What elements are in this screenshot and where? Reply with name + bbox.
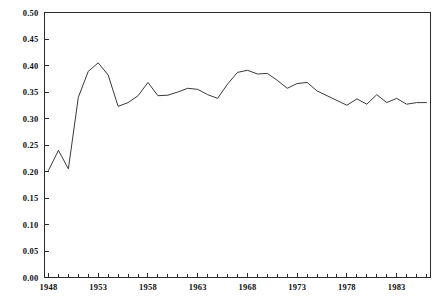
- x-axis-tick-label: 1953: [89, 282, 107, 292]
- y-axis-tick-label: 0.10: [23, 220, 39, 230]
- y-axis-tick-label: 0.35: [23, 87, 39, 97]
- data-series-line: [48, 63, 426, 171]
- x-axis-tick-labels: 19481953195819631968197319781983: [40, 282, 406, 292]
- y-axis-tick-labels: 0.500.450.400.350.300.250.200.150.100.05…: [23, 8, 39, 283]
- series-polyline: [48, 63, 426, 171]
- y-axis-tick-label: 0.20: [23, 167, 39, 177]
- x-axis-tick-label: 1968: [239, 282, 257, 292]
- y-axis-tick-label: 0.15: [23, 193, 39, 203]
- chart-container: 0.500.450.400.350.300.250.200.150.100.05…: [0, 0, 445, 303]
- plot-box: [45, 13, 431, 278]
- y-axis-tick-label: 0.25: [23, 140, 39, 150]
- y-axis-tick-label: 0.45: [23, 34, 39, 44]
- x-axis-tick-label: 1948: [40, 282, 58, 292]
- y-axis-ticks: [45, 13, 49, 278]
- plot-frame: [45, 13, 431, 278]
- line-chart: 0.500.450.400.350.300.250.200.150.100.05…: [0, 0, 445, 303]
- x-axis-tick-label: 1958: [139, 282, 157, 292]
- x-axis-tick-label: 1963: [189, 282, 207, 292]
- x-axis-tick-label: 1973: [288, 282, 306, 292]
- x-axis-ticks: [48, 273, 426, 278]
- x-axis-tick-label: 1983: [388, 282, 406, 292]
- y-axis-tick-label: 0.50: [23, 8, 39, 18]
- y-axis-tick-label: 0.00: [23, 273, 39, 283]
- x-axis-tick-label: 1978: [338, 282, 356, 292]
- y-axis-tick-label: 0.05: [23, 246, 39, 256]
- y-axis-tick-label: 0.30: [23, 114, 39, 124]
- y-axis-tick-label: 0.40: [23, 61, 39, 71]
